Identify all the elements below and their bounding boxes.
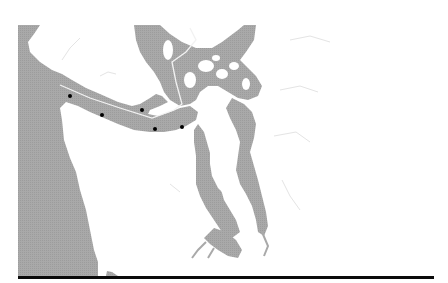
site-marker-2[interactable]	[100, 113, 104, 117]
site-marker-4[interactable]	[153, 127, 157, 131]
site-marker-3[interactable]	[140, 108, 144, 112]
site-marker-1[interactable]	[68, 94, 72, 98]
map-svg	[18, 22, 434, 279]
site-marker-5[interactable]	[180, 125, 184, 129]
map-frame	[18, 22, 434, 279]
figure-title-cutoff	[60, 0, 280, 5]
map-bottom-rule	[18, 276, 434, 279]
